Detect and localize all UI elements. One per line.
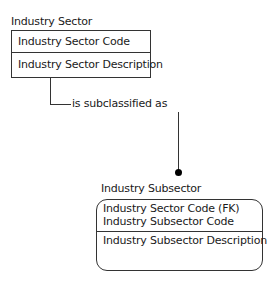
- relationship-label: is subclassified as: [72, 97, 167, 110]
- non-key-attribute: Industry Sector Description: [12, 58, 163, 72]
- key-divider: [97, 231, 262, 232]
- many-cardinality-dot-icon: [175, 169, 182, 176]
- key-attribute: Industry Sector Code: [12, 35, 130, 49]
- relationship-line-vertical-lower: [178, 112, 179, 172]
- entity-title-industry-subsector: Industry Subsector: [101, 182, 201, 195]
- relationship-line-vertical-upper: [50, 78, 51, 105]
- relationship-line-horizontal: [50, 104, 71, 105]
- key-divider: [12, 52, 150, 53]
- key-attribute: Industry Subsector Code: [97, 215, 234, 229]
- entity-box-industry-sector[interactable]: Industry Sector Code Industry Sector Des…: [11, 30, 151, 78]
- non-key-attribute: Industry Subsector Description: [97, 234, 267, 248]
- entity-title-industry-sector: Industry Sector: [11, 15, 92, 28]
- entity-box-industry-subsector[interactable]: Industry Sector Code (FK) Industry Subse…: [96, 199, 263, 271]
- key-attribute: Industry Sector Code (FK): [97, 202, 239, 216]
